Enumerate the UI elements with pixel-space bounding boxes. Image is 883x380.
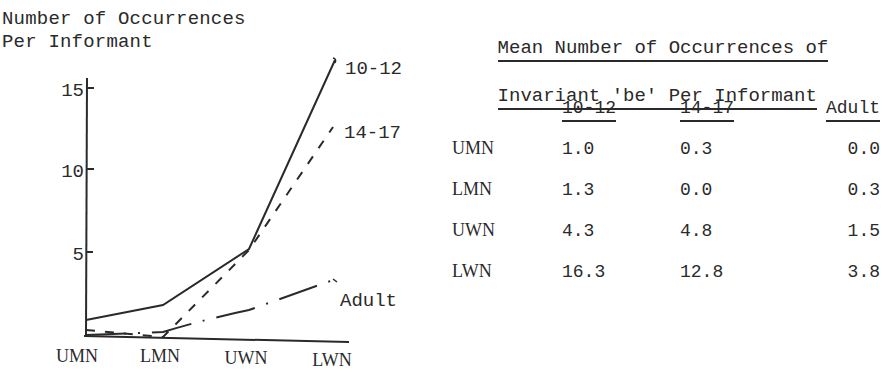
row-label: UWN <box>452 210 562 251</box>
column-header-14-17: 14-17 <box>680 88 820 128</box>
x-tick-label-uwn: UWN <box>225 348 268 368</box>
data-table-panel: Mean Number of Occurrences of Invariant … <box>452 14 883 133</box>
table-row: LWN 16.3 12.8 3.8 <box>452 251 880 292</box>
y-tick-label-5: 5 <box>73 244 84 266</box>
y-tick-label-15: 15 <box>61 80 84 102</box>
column-header-adult: Adult <box>820 88 880 128</box>
series-line-adult <box>86 279 336 335</box>
series-label-10-12: 10-12 <box>345 58 402 80</box>
cell-14-17: 0.3 <box>680 128 820 169</box>
y-axis: 15 10 5 <box>61 78 94 336</box>
cell-10-12: 1.3 <box>562 169 680 210</box>
cell-14-17: 12.8 <box>680 251 820 292</box>
row-label: LMN <box>452 169 562 210</box>
cell-10-12: 16.3 <box>562 251 680 292</box>
cell-14-17: 0.0 <box>680 169 820 210</box>
cell-10-12: 1.0 <box>562 128 680 169</box>
cell-14-17: 4.8 <box>680 210 820 251</box>
corner-cell <box>452 88 562 128</box>
series-label-14-17: 14-17 <box>344 122 401 144</box>
y-tick-label-10: 10 <box>61 161 84 183</box>
cell-adult: 1.5 <box>820 210 880 251</box>
cell-adult: 0.3 <box>820 169 880 210</box>
table-row: LMN 1.3 0.0 0.3 <box>452 169 880 210</box>
line-chart: 15 10 5 UMN LMN UWN LWN 10-12 14-17 Adul… <box>0 0 440 380</box>
cell-adult: 3.8 <box>820 251 880 292</box>
series-line-14-17 <box>86 127 333 337</box>
table-header-row: 10-12 14-17 Adult <box>452 88 880 128</box>
x-tick-label-lwn: LWN <box>312 350 352 370</box>
cell-adult: 0.0 <box>820 128 880 169</box>
row-label: LWN <box>452 251 562 292</box>
cell-10-12: 4.3 <box>562 210 680 251</box>
row-label: UMN <box>452 128 562 169</box>
column-header-10-12: 10-12 <box>562 88 680 128</box>
x-axis: UMN LMN UWN LWN <box>56 336 352 370</box>
table-row: UMN 1.0 0.3 0.0 <box>452 128 880 169</box>
x-tick-label-umn: UMN <box>56 346 98 366</box>
x-tick-label-lmn: LMN <box>140 346 180 366</box>
data-table: 10-12 14-17 Adult UMN 1.0 0.3 0.0 LMN 1.… <box>452 88 880 292</box>
table-row: UWN 4.3 4.8 1.5 <box>452 210 880 251</box>
series-label-adult: Adult <box>340 290 397 312</box>
series-line-10-12 <box>86 60 335 320</box>
table-title-line1: Mean Number of Occurrences of <box>498 37 829 62</box>
